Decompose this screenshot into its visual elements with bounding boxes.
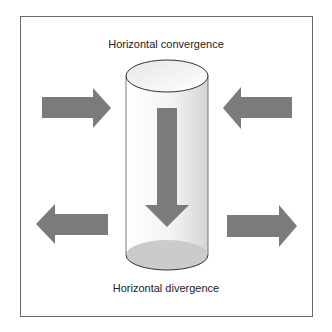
cylinder-top [126, 60, 208, 92]
divergence-arrow-right-icon [227, 205, 297, 247]
convergence-arrow-left-icon [42, 88, 111, 128]
convergence-arrow-right-icon [223, 87, 292, 129]
horizontal-convergence-label: Horizontal convergence [0, 38, 332, 50]
horizontal-divergence-label: Horizontal divergence [0, 282, 332, 294]
divergence-arrow-left-icon [36, 204, 108, 244]
